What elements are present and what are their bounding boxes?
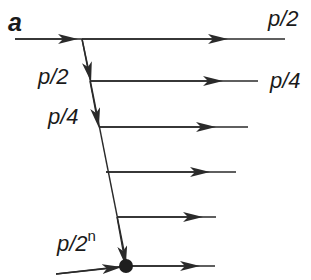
label-diag1: p/2 [38,66,69,88]
branching-diagram [0,0,311,280]
final-node-dot [119,259,133,273]
label-top-right: p/2 [268,8,299,30]
label-branch1-right: p/4 [270,70,301,92]
label-diag2: p/4 [48,106,79,128]
label-diag-last-base: p/2 [57,231,88,256]
label-diag-last-exp: n [88,227,96,244]
label-diag-last: p/2n [57,228,96,255]
label-a: a [8,10,22,35]
